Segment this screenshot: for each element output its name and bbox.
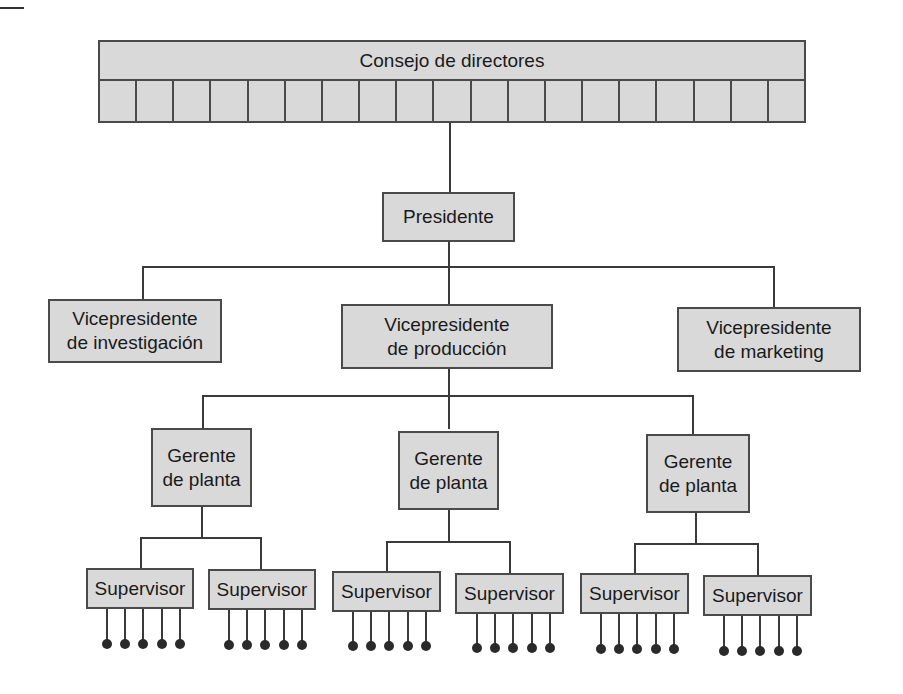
plant-manager-label: Gerente de planta <box>162 444 240 492</box>
connector-vp-research <box>142 266 144 300</box>
worker-connector <box>246 610 248 642</box>
connector-s6 <box>757 543 759 576</box>
worker-connector <box>124 609 126 641</box>
worker-connector <box>142 609 144 641</box>
president-label: Presidente <box>403 205 494 229</box>
corner-mark <box>0 7 24 9</box>
connector-s5 <box>634 543 636 574</box>
board-member-cell <box>657 81 694 123</box>
board-title: Consejo de directores <box>100 42 804 81</box>
worker-connector <box>388 612 390 643</box>
board-member-cell <box>211 81 248 123</box>
worker-dot-icon <box>421 641 431 651</box>
board-member-cell <box>769 81 804 123</box>
worker-dot-icon <box>669 644 679 654</box>
vp-production-label: Vicepresidente de producción <box>384 313 509 361</box>
worker-dot-icon <box>614 644 624 654</box>
supervisor-box-5: Supervisor <box>580 573 689 614</box>
supervisor-label: Supervisor <box>217 578 308 602</box>
worker-connector <box>106 609 108 641</box>
worker-dot-icon <box>632 644 642 654</box>
vp-marketing-box: Vicepresidente de marketing <box>677 307 861 372</box>
worker-dot-icon <box>175 639 185 649</box>
vp-research-label: Vicepresidente de investigación <box>67 307 203 355</box>
worker-connector <box>778 616 780 648</box>
connector-s4 <box>509 541 511 574</box>
supervisor-box-4: Supervisor <box>455 573 564 614</box>
worker-dot-icon <box>224 640 234 650</box>
board-member-cell <box>323 81 360 123</box>
president-box: Presidente <box>382 192 515 242</box>
supervisor-label: Supervisor <box>464 582 555 606</box>
plant-manager-box-1: Gerente de planta <box>151 428 252 507</box>
worker-dot-icon <box>508 643 518 653</box>
worker-dot-icon <box>774 646 784 656</box>
vp-research-box: Vicepresidente de investigación <box>48 299 222 363</box>
worker-dot-icon <box>490 643 500 653</box>
board-member-cell <box>174 81 211 123</box>
vp-production-box: Vicepresidente de producción <box>341 304 553 369</box>
worker-dot-icon <box>120 639 130 649</box>
connector-board-president <box>449 123 451 193</box>
connector-manager-1 <box>202 395 204 429</box>
worker-dot-icon <box>384 641 394 651</box>
connector-s2 <box>260 537 262 569</box>
worker-connector <box>723 616 725 648</box>
supervisor-label: Supervisor <box>712 584 803 608</box>
worker-connector <box>636 614 638 646</box>
worker-dot-icon <box>596 644 606 654</box>
board-member-cells <box>100 81 804 123</box>
board-member-cell <box>472 81 509 123</box>
board-of-directors: Consejo de directores <box>98 40 806 123</box>
board-member-cell <box>360 81 397 123</box>
supervisor-box-6: Supervisor <box>703 575 812 616</box>
plant-manager-label: Gerente de planta <box>659 450 737 498</box>
supervisor-box-1: Supervisor <box>86 568 194 609</box>
worker-connector <box>352 612 354 643</box>
worker-dot-icon <box>792 646 802 656</box>
supervisor-box-2: Supervisor <box>208 569 316 610</box>
supervisor-label: Supervisor <box>95 577 186 601</box>
connector-s3 <box>386 541 388 572</box>
worker-connector <box>512 614 514 645</box>
board-member-cell <box>249 81 286 123</box>
board-member-cell <box>695 81 732 123</box>
worker-connector <box>264 610 266 642</box>
worker-connector <box>618 614 620 646</box>
worker-dot-icon <box>157 639 167 649</box>
worker-connector <box>476 614 478 645</box>
worker-connector <box>370 612 372 643</box>
supervisor-label: Supervisor <box>341 580 432 604</box>
supervisor-label: Supervisor <box>589 582 680 606</box>
worker-connector <box>549 614 551 645</box>
board-member-cell <box>100 81 137 123</box>
worker-connector <box>531 614 533 645</box>
board-member-cell <box>509 81 546 123</box>
board-member-cell <box>546 81 583 123</box>
connector-vp-marketing <box>773 266 775 308</box>
worker-dot-icon <box>651 644 661 654</box>
plant-manager-label: Gerente de planta <box>409 447 487 495</box>
board-member-cell <box>434 81 471 123</box>
board-member-cell <box>137 81 174 123</box>
worker-dot-icon <box>102 639 112 649</box>
board-member-cell <box>397 81 434 123</box>
connector-m1-down <box>201 507 203 538</box>
worker-connector <box>407 612 409 643</box>
worker-dot-icon <box>366 641 376 651</box>
connector-m3-bus <box>634 543 758 545</box>
worker-connector <box>301 610 303 642</box>
board-member-cell <box>583 81 620 123</box>
worker-connector <box>655 614 657 646</box>
plant-manager-box-3: Gerente de planta <box>646 434 750 513</box>
worker-connector <box>283 610 285 642</box>
worker-dot-icon <box>242 640 252 650</box>
worker-dot-icon <box>297 640 307 650</box>
board-member-cell <box>732 81 769 123</box>
worker-dot-icon <box>279 640 289 650</box>
worker-connector <box>179 609 181 641</box>
worker-dot-icon <box>260 640 270 650</box>
connector-manager-bus <box>202 395 693 397</box>
worker-connector <box>796 616 798 648</box>
connector-m2-down <box>448 510 450 542</box>
